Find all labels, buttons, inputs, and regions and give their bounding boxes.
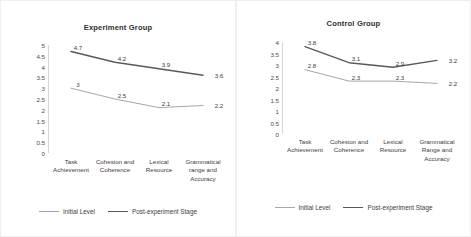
y-axis-tick-label: 1.5 — [36, 117, 45, 124]
data-point-label: 2.2 — [215, 102, 224, 109]
data-point-label: 2.3 — [352, 73, 361, 80]
data-point-label: 2.3 — [396, 73, 405, 80]
data-point-label: 2.9 — [396, 59, 405, 66]
y-axis-tick-label: 2 — [42, 106, 45, 113]
data-point-label: 2.8 — [308, 62, 317, 69]
legend-line-swatch-icon — [275, 207, 295, 208]
chart-panel-experiment-group: Experiment Group 54.543.532.521.510.50 3… — [0, 0, 236, 237]
y-axis-tick-label: 3.5 — [270, 50, 279, 57]
y-axis-tick-label: 2.5 — [270, 73, 279, 80]
legend-label: Post-experiment Stage — [367, 204, 432, 211]
plot-area: 54.543.532.521.510.50 32.52.12.24.74.23.… — [49, 45, 225, 153]
y-axis-tick-label: 0 — [42, 150, 45, 157]
legend-label: Post-experiment Stage — [132, 208, 197, 215]
y-axis-tick-label: 4.5 — [36, 52, 45, 59]
data-point-label: 4.7 — [74, 43, 83, 50]
legend-label: Initial Level — [299, 204, 331, 211]
x-axis-labels: Task AchievementCohesion and CoherenceLe… — [49, 158, 225, 183]
legend-item[interactable]: Post-experiment Stage — [343, 204, 432, 211]
x-axis-label: Cohesion and Coherence — [327, 138, 371, 163]
x-axis-label: Lexical Resource — [137, 158, 181, 183]
series-line — [305, 70, 437, 84]
data-point-label: 3.9 — [162, 61, 171, 68]
plot-area: 43.532.521.510.50 2.82.32.32.23.83.12.93… — [283, 42, 459, 134]
y-axis-tick-label: 1 — [42, 128, 45, 135]
data-point-label: 3.1 — [352, 55, 361, 62]
y-axis-tick-label: 4 — [276, 39, 279, 46]
legend-line-swatch-icon — [108, 211, 128, 212]
y-axis-tick-label: 3.5 — [36, 74, 45, 81]
chart-legend: Initial LevelPost-experiment Stage — [1, 208, 235, 215]
series-line — [71, 51, 203, 75]
legend-item[interactable]: Post-experiment Stage — [108, 208, 197, 215]
data-point-label: 3 — [76, 80, 79, 87]
y-axis-tick-label: 3 — [42, 85, 45, 92]
data-point-label: 3.2 — [449, 57, 458, 64]
data-point-label: 2.1 — [162, 100, 171, 107]
y-axis-tick-label: 5 — [42, 42, 45, 49]
x-axis-label: Grammatical Range and Accuracy — [415, 138, 459, 163]
y-axis-tick-label: 2 — [276, 85, 279, 92]
chart-title: Experiment Group — [1, 23, 235, 32]
x-axis-labels: Task AchievementCohesion and CoherenceLe… — [283, 138, 459, 163]
legend-item[interactable]: Initial Level — [275, 204, 331, 211]
data-point-label: 2.2 — [449, 80, 458, 87]
chart-legend: Initial LevelPost-experiment Stage — [237, 204, 470, 211]
y-axis-tick-label: 3 — [276, 62, 279, 69]
y-axis-tick-label: 0.5 — [36, 139, 45, 146]
series-lines — [49, 45, 225, 153]
x-axis-label: Task Achievement — [49, 158, 93, 183]
x-axis-label: Cohesion and Coherence — [93, 158, 137, 183]
y-axis-tick-label: 0.5 — [270, 119, 279, 126]
chart-title: Control Group — [237, 19, 470, 28]
y-axis-tick-label: 2.5 — [36, 96, 45, 103]
data-point-label: 3.8 — [308, 39, 317, 46]
series-line — [305, 47, 437, 68]
legend-line-swatch-icon — [39, 211, 59, 212]
x-axis-label: Grammatical range and Accuracy — [181, 158, 225, 183]
series-line — [71, 88, 203, 107]
figure-two-line-charts: Experiment Group 54.543.532.521.510.50 3… — [0, 0, 471, 237]
data-point-label: 2.5 — [118, 91, 127, 98]
legend-line-swatch-icon — [343, 207, 363, 208]
legend-item[interactable]: Initial Level — [39, 208, 95, 215]
data-point-label: 4.2 — [118, 54, 127, 61]
data-point-label: 3.6 — [215, 72, 224, 79]
y-axis-tick-label: 4 — [42, 63, 45, 70]
y-axis-tick-label: 1.5 — [270, 96, 279, 103]
y-axis-tick-label: 0 — [276, 131, 279, 138]
x-axis-label: Lexical Resource — [371, 138, 415, 163]
chart-panel-control-group: Control Group 43.532.521.510.50 2.82.32.… — [236, 0, 471, 237]
legend-label: Initial Level — [63, 208, 95, 215]
x-axis-label: Task Achievement — [283, 138, 327, 163]
y-axis-tick-label: 1 — [276, 108, 279, 115]
series-lines — [283, 42, 459, 134]
